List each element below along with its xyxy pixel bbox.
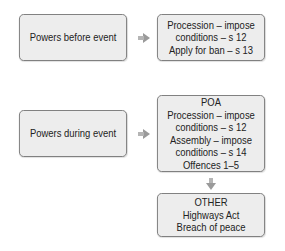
box-title: POA: [201, 96, 221, 109]
box-text: Powers during event: [30, 127, 116, 140]
box-text: Highways Act: [183, 209, 240, 222]
box-text: conditions – s 12: [176, 121, 247, 134]
arrow-right-icon: [143, 33, 150, 43]
before-event-powers-box: Procession – impose conditions – s 12 Ap…: [157, 14, 265, 61]
box-text: Offences 1–5: [183, 159, 239, 172]
box-text: Powers before event: [30, 31, 117, 44]
powers-during-event-box: Powers during event: [19, 110, 127, 157]
box-text: Procession – impose: [167, 19, 255, 32]
arrow-down-icon: [206, 183, 216, 190]
box-text: conditions – s 12: [176, 31, 247, 44]
arrow-right-icon: [143, 129, 150, 139]
poa-powers-box: POA Procession – impose conditions – s 1…: [157, 95, 265, 172]
other-powers-box: OTHER Highways Act Breach of peace: [157, 193, 265, 237]
box-text: Apply for ban – s 13: [169, 44, 253, 57]
box-title: OTHER: [194, 196, 227, 209]
box-text: Procession – impose: [167, 109, 255, 122]
box-text: conditions – s 14: [176, 146, 247, 159]
box-text: Assembly – impose: [170, 134, 252, 147]
powers-before-event-box: Powers before event: [19, 14, 127, 61]
box-text: Breach of peace: [177, 221, 246, 234]
